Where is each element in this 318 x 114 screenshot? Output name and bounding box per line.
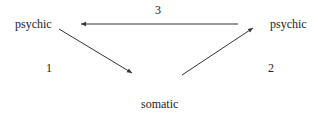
- arrow-2: [182, 28, 253, 75]
- node-psychic-right: psychic: [270, 18, 307, 30]
- node-somatic: somatic: [141, 98, 178, 110]
- edge-label-1: 1: [46, 62, 52, 74]
- arrow-1: [59, 29, 132, 73]
- node-psychic-left: psychic: [15, 18, 52, 30]
- edge-label-3: 3: [155, 4, 161, 16]
- edge-label-2: 2: [268, 62, 274, 74]
